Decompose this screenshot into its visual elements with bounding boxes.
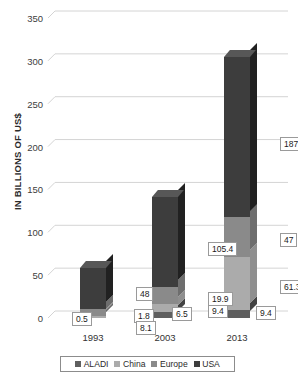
- data-label: 9.4: [208, 304, 228, 318]
- data-label: 6.5: [172, 307, 192, 321]
- bar-segment-usa[interactable]: [224, 57, 250, 218]
- x-axis-tick-label: 2003: [154, 332, 175, 343]
- chart-legend: ALADIChinaEuropeUSA: [60, 356, 235, 372]
- bar-segment-face: [152, 197, 178, 287]
- bar-segment-top: [224, 50, 256, 57]
- data-label: 61.3: [280, 280, 298, 294]
- legend-label: USA: [202, 359, 220, 369]
- y-axis-tick-label: 0: [38, 313, 43, 324]
- legend-swatch-icon: [75, 361, 81, 367]
- chart-container: IN BILLIONS OF US$ 050100150200250300350…: [0, 0, 298, 382]
- legend-label: China: [123, 359, 145, 369]
- bar-segment-side: [250, 203, 257, 250]
- legend-swatch-icon: [194, 361, 200, 367]
- legend-item-china[interactable]: China: [114, 359, 145, 369]
- bar-segment-side: [178, 183, 185, 280]
- legend-swatch-icon: [114, 361, 120, 367]
- y-axis-tick-label: 100: [27, 227, 43, 238]
- bar-segment-usa[interactable]: [80, 268, 106, 309]
- data-label: 187.3: [280, 137, 298, 151]
- bar-segment-face: [224, 57, 250, 218]
- y-axis-tick-label: 300: [27, 55, 43, 66]
- legend-swatch-icon: [151, 361, 157, 367]
- data-label: 8.1: [136, 321, 156, 335]
- x-axis-tick-label: 2013: [226, 332, 247, 343]
- data-label: 19.9: [208, 292, 233, 306]
- bar-segment-usa[interactable]: [152, 197, 178, 287]
- y-axis-tick-label: 250: [27, 98, 43, 109]
- data-label: 9.4: [256, 306, 276, 320]
- y-axis-tick-label: 150: [27, 184, 43, 195]
- y-axis-tick-label: 50: [32, 270, 43, 281]
- bar-segment-side: [250, 43, 257, 211]
- bar-segment-aladi[interactable]: [224, 310, 250, 318]
- legend-label: Europe: [160, 359, 188, 369]
- y-axis-tick-label: 350: [27, 13, 43, 24]
- data-label: 47: [280, 233, 297, 247]
- data-label: 105.4: [208, 242, 237, 256]
- legend-label: ALADI: [84, 359, 109, 369]
- plot-area: 050100150200250300350 0.51.88.1486.59.41…: [48, 18, 288, 318]
- bar-segment-face: [80, 268, 106, 309]
- y-axis-title: IN BILLIONS OF US$: [12, 97, 23, 227]
- x-axis-tick-label: 1993: [82, 332, 103, 343]
- legend-item-usa[interactable]: USA: [194, 359, 220, 369]
- gridline: [48, 11, 288, 18]
- y-axis-tick-label: 200: [27, 141, 43, 152]
- bar-segment-face: [224, 310, 250, 318]
- data-label: 0.5: [72, 312, 92, 326]
- legend-item-europe[interactable]: Europe: [151, 359, 187, 369]
- bar-segment-europe[interactable]: [152, 287, 178, 304]
- bar-segment-face: [152, 287, 178, 304]
- data-label: 48: [136, 287, 153, 301]
- legend-item-aladi[interactable]: ALADI: [75, 359, 108, 369]
- bar-segment-side: [250, 243, 257, 303]
